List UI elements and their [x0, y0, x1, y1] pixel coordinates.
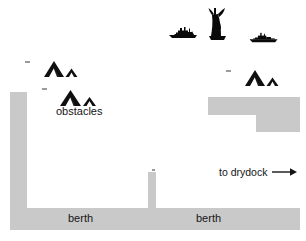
left-quay-wall: [10, 92, 27, 214]
drydock-direction-annotation: to drydock: [219, 166, 298, 178]
right-quay-upper: [208, 97, 300, 115]
obstacles-label: obstacles: [56, 106, 102, 117]
center-pier-dolphin: [148, 172, 156, 210]
obstacle-marker-upper-left: [42, 59, 82, 79]
bottom-berth-quay: [10, 208, 300, 230]
harbor-diagram-canvas: obstacles berth berth to drydock: [0, 0, 306, 241]
tick-mark-1: [25, 61, 30, 63]
arrow-right-icon: [272, 167, 298, 177]
tick-mark-3: [226, 70, 231, 72]
obstacle-marker-right: [243, 68, 283, 88]
tug-boat-left-icon: [167, 24, 199, 40]
berth-label-right: berth: [196, 213, 221, 224]
large-vessel-center-icon: [204, 6, 228, 42]
tick-mark-2: [42, 88, 47, 90]
tick-mark-4: [152, 169, 155, 171]
berth-label-left: berth: [68, 213, 93, 224]
right-quay-lower: [256, 115, 300, 132]
tug-boat-right-icon: [248, 30, 279, 44]
drydock-label: to drydock: [219, 166, 267, 178]
